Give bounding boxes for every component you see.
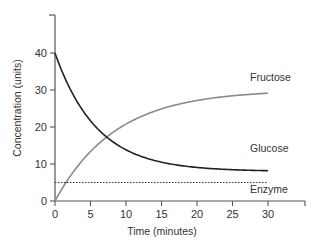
x-axis-title: Time (minutes)	[127, 225, 197, 237]
x-tick-label: 10	[120, 208, 132, 220]
fructose-label: Fructose	[250, 71, 291, 83]
x-tick-label: 0	[52, 208, 58, 220]
series-labels: FructoseGlucoseEnzyme	[250, 71, 291, 195]
glucose-line	[55, 53, 268, 171]
y-tick-label: 40	[35, 47, 47, 59]
x-tick-label: 25	[226, 208, 238, 220]
y-tick-label: 30	[35, 84, 47, 96]
fructose-line	[55, 93, 268, 201]
x-tick-label: 15	[155, 208, 167, 220]
y-tick-label: 0	[41, 195, 47, 207]
x-tick-label: 5	[87, 208, 93, 220]
series-lines	[55, 53, 268, 201]
y-tick-label: 10	[35, 158, 47, 170]
enzyme-label: Enzyme	[250, 183, 288, 195]
y-axis-title: Concentration (units)	[11, 59, 23, 156]
x-tick-label: 30	[262, 208, 274, 220]
y-tick-label: 20	[35, 121, 47, 133]
concentration-chart: 010203040051015202530 FructoseGlucoseEnz…	[0, 0, 319, 251]
x-tick-label: 20	[191, 208, 203, 220]
glucose-label: Glucose	[250, 142, 289, 154]
